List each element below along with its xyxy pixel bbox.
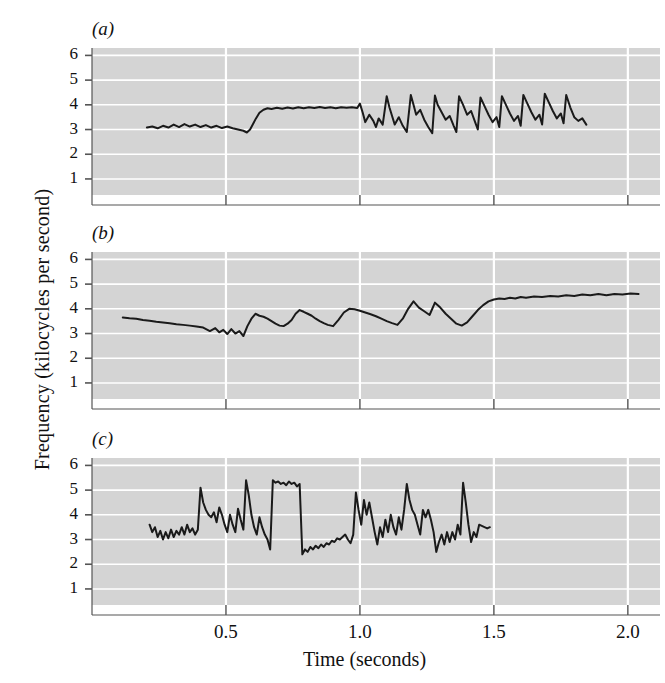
y-tick-label: 1 (54, 168, 78, 188)
y-tick-label: 3 (54, 529, 78, 549)
y-tick-label: 1 (54, 578, 78, 598)
y-tick-label: 6 (54, 44, 78, 64)
y-tick-label: 6 (54, 454, 78, 474)
y-tick-label: 2 (54, 143, 78, 163)
y-tick-label: 4 (54, 94, 78, 114)
y-tick-label: 4 (54, 298, 78, 318)
plot-background (92, 48, 660, 195)
y-tick-label: 1 (54, 372, 78, 392)
y-tick-label: 2 (54, 347, 78, 367)
y-tick-label: 5 (54, 273, 78, 293)
x-tick-label: 0.5 (196, 621, 256, 643)
y-tick-label: 6 (54, 248, 78, 268)
x-tick-label: 1.5 (464, 621, 524, 643)
plot-background (92, 252, 660, 399)
y-tick-label: 2 (54, 553, 78, 573)
x-tick-label: 1.0 (330, 621, 390, 643)
x-tick-label: 2.0 (598, 621, 658, 643)
figure-root: Frequency (kilocycles per second) Time (… (0, 0, 665, 683)
panel-a (85, 48, 660, 205)
spectrogram-plots (0, 0, 665, 683)
y-tick-label: 3 (54, 119, 78, 139)
panel-c (85, 458, 660, 615)
y-tick-label: 5 (54, 479, 78, 499)
y-tick-label: 5 (54, 69, 78, 89)
panel-b (85, 252, 660, 409)
y-tick-label: 3 (54, 323, 78, 343)
y-tick-label: 4 (54, 504, 78, 524)
